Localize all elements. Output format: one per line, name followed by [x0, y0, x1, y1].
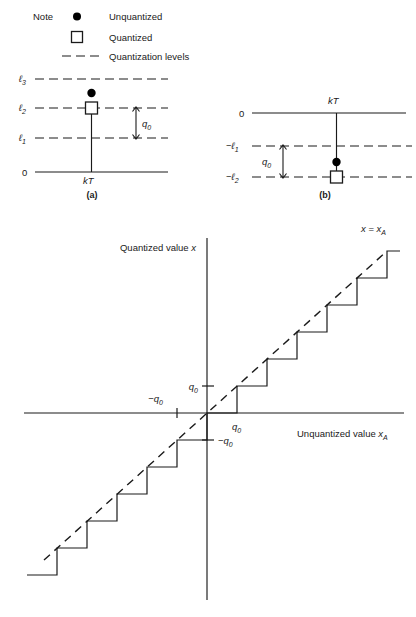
- panel-b-zero-label: 0: [239, 108, 244, 119]
- open-square-icon: [72, 32, 83, 43]
- main-plot: x = xA −q0 q0 q0 −q0 Quantized value x U…: [24, 223, 404, 600]
- panel-a-level-label-l3: ℓ3: [18, 73, 26, 86]
- legend-label-quantized: Quantized: [109, 32, 152, 43]
- panel-b-level-label-neg-l2: −ℓ2: [226, 171, 239, 184]
- legend: Note Unquantized Quantized Quantization …: [33, 11, 190, 62]
- legend-title: Note: [33, 11, 53, 22]
- y-axis-title: Quantized value x: [120, 242, 197, 253]
- figure-canvas: Note Unquantized Quantized Quantization …: [0, 0, 416, 617]
- panel-a-quantized-marker: [86, 102, 98, 114]
- panel-b-quantized-marker: [331, 171, 343, 183]
- panel-a-level-label-l1: ℓ1: [18, 132, 26, 145]
- panel-a-level-label-l2: ℓ2: [18, 102, 26, 115]
- x-tick-label-negative-q0: −q0: [148, 393, 163, 406]
- panel-b-level-label-neg-l1: −ℓ1: [226, 140, 239, 153]
- panel-b: 0 −ℓ1 −ℓ2 kT q0 (b): [226, 95, 412, 200]
- panel-a-zero-label: 0: [22, 167, 27, 178]
- y-tick-label-negative-q0: −q0: [218, 435, 233, 448]
- panel-b-sample-time-label: kT: [328, 95, 340, 106]
- identity-line: [44, 251, 387, 560]
- panel-a: ℓ3 ℓ2 ℓ1 0 kT q0 (a): [18, 73, 168, 200]
- panel-a-unquantized-marker: [87, 89, 95, 97]
- panel-a-caption: (a): [87, 190, 98, 200]
- x-axis-title: Unquantized value xA: [297, 428, 388, 441]
- panel-b-caption: (b): [319, 190, 331, 200]
- legend-label-unquantized: Unquantized: [109, 11, 162, 22]
- y-tick-label-positive-q0: q0: [189, 381, 198, 394]
- identity-line-label: x = xA: [360, 223, 386, 236]
- panel-b-unquantized-marker: [332, 158, 340, 166]
- panel-a-sample-time-label: kT: [83, 175, 95, 186]
- legend-label-quantization-levels: Quantization levels: [109, 51, 190, 62]
- filled-dot-icon: [73, 13, 81, 21]
- panel-b-q0-label: q0: [262, 156, 271, 169]
- quantization-figure: Note Unquantized Quantized Quantization …: [0, 0, 416, 617]
- x-tick-label-positive-q0: q0: [232, 421, 241, 434]
- panel-a-q0-label: q0: [142, 118, 151, 131]
